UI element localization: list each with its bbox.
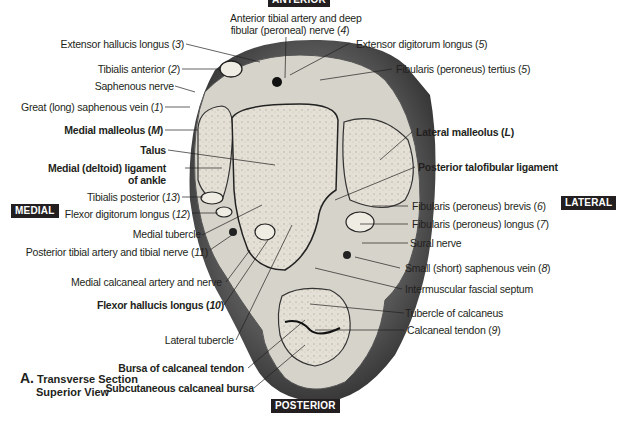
label-talus: Talus	[140, 144, 166, 156]
label-medial-calcaneal-artery: Medial calcaneal artery and nerve	[71, 276, 222, 288]
label-medial-malleolus: Medial malleolus (M)	[64, 124, 163, 136]
label-text: Fibularis (peroneus) brevis	[412, 200, 531, 212]
label-text: Tibialis posterior	[87, 191, 159, 203]
label-flexor-digitorum-longus: Flexor digitorum longus (12)	[65, 208, 190, 220]
label-text: Great (long) saphenous vein	[21, 101, 148, 113]
medial-orientation-tag: MEDIAL	[11, 204, 59, 218]
label-anterior-tibial-artery: Anterior tibial artery and deep fibular …	[230, 12, 350, 36]
label-fibularis-tertius: Fibularis (peroneus) tertius (5)	[396, 63, 530, 75]
label-great-saphenous-vein: Great (long) saphenous vein (1)	[21, 101, 163, 113]
label-number: 3	[175, 38, 181, 50]
label-number: 1	[154, 101, 160, 113]
label-number: 13	[165, 191, 176, 203]
label-sural-nerve: Sural nerve	[410, 237, 462, 249]
tibialis-posterior-tendon	[201, 192, 223, 204]
label-tibialis-anterior: Tibialis anterior (2)	[98, 63, 180, 75]
label-fibularis-longus: Fibularis (peroneus) longus (7)	[412, 218, 549, 230]
label-number: 10	[209, 299, 220, 311]
label-tubercle-of-calcaneus: Tubercle of calcaneus	[405, 307, 503, 319]
label-small-saphenous-vein: Small (short) saphenous vein (8)	[405, 262, 550, 274]
small-saphenous-vein	[343, 251, 351, 259]
posterior-tibial-artery	[229, 228, 237, 236]
label-line-2: of ankle	[48, 174, 166, 186]
label-extensor-hallucis-longus: Extensor hallucis longus (3)	[61, 38, 184, 50]
label-tibialis-posterior: Tibialis posterior (13)	[87, 191, 180, 203]
label-line-1: Anterior tibial artery and deep	[230, 12, 350, 24]
label-text: Fibularis (peroneus) tertius	[396, 63, 515, 75]
label-medial-ligament: Medial (deltoid) ligament of ankle	[48, 162, 166, 186]
figure-caption-subtitle: Superior View	[36, 386, 109, 399]
label-medial-tubercle: Medial tubercle	[133, 228, 201, 240]
label-number: 5	[478, 38, 484, 50]
label-extensor-digitorum-longus: Extensor digitorum longus (5)	[356, 38, 487, 50]
flexor-hallucis-longus-tendon	[255, 224, 275, 240]
label-posterior-tibial-artery: Posterior tibial artery and tibial nerve…	[26, 246, 208, 258]
label-number: 5	[521, 63, 527, 75]
label-text: Posterior tibial artery and tibial nerve	[26, 246, 188, 258]
tibialis-anterior-tendon	[220, 61, 242, 77]
label-lateral-malleolus: Lateral malleolus (L)	[416, 126, 514, 138]
label-number: 12	[175, 208, 186, 220]
posterior-orientation-tag: POSTERIOR	[271, 399, 340, 413]
figure-caption: A. Transverse Section	[20, 372, 138, 386]
label-number: 8	[541, 262, 547, 274]
label-text: Fibularis (peroneus) longus	[412, 218, 534, 230]
label-intermuscular-fascial-septum: Intermuscular fascial septum	[405, 283, 533, 295]
lateral-orientation-tag: LATERAL	[561, 196, 616, 210]
label-text: Calcaneal tendon	[407, 324, 486, 336]
label-number: 7	[540, 218, 546, 230]
label-fibularis-brevis: Fibularis (peroneus) brevis (6)	[412, 200, 546, 212]
label-line-2: fibular (peroneal) nerve (4)	[230, 24, 350, 36]
label-number: 11	[194, 246, 205, 258]
label-text: Small (short) saphenous vein	[405, 262, 535, 274]
caption-letter: A.	[20, 370, 34, 386]
flexor-digitorum-longus-tendon	[216, 207, 232, 217]
anterior-tibial-artery	[272, 77, 282, 87]
label-text: fibular (peroneal) nerve	[231, 24, 335, 36]
anterior-orientation-tag: ANTERIOR	[268, 0, 330, 7]
label-saphenous-nerve: Saphenous nerve	[95, 80, 174, 92]
label-text: Flexor digitorum longus	[65, 208, 170, 220]
label-number: 6	[537, 200, 543, 212]
label-text: Flexor hallucis longus	[97, 299, 203, 311]
label-flexor-hallucis-longus: Flexor hallucis longus (10)	[97, 299, 224, 311]
label-text: Extensor digitorum longus	[356, 38, 472, 50]
label-text: Lateral malleolus	[416, 126, 498, 138]
label-calcaneal-tendon: Calcaneal tendon (9)	[407, 324, 500, 336]
label-number: 4	[340, 24, 346, 36]
fibularis-tendons	[346, 212, 374, 232]
label-number: 2	[171, 63, 177, 75]
label-number: 9	[492, 324, 498, 336]
label-number: M	[151, 124, 160, 136]
label-lateral-tubercle: Lateral tubercle	[165, 334, 234, 346]
label-text: Extensor hallucis longus	[61, 38, 169, 50]
label-line-1: Medial (deltoid) ligament	[48, 162, 166, 174]
label-posterior-talofibular-ligament: Posterior talofibular ligament	[418, 161, 558, 173]
label-text: Tibialis anterior	[98, 63, 165, 75]
label-text: Medial malleolus	[64, 124, 145, 136]
caption-title: Transverse Section	[37, 373, 138, 385]
label-number: L	[504, 126, 510, 138]
